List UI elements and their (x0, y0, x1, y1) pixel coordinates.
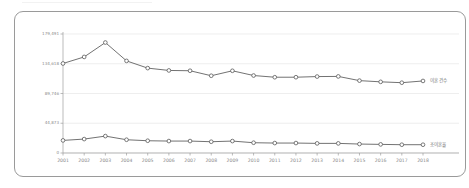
gridlines (63, 34, 459, 153)
line-chart: 044,87389,746134,618179,491 200120022003… (15, 12, 466, 177)
series-0-marker-8 (231, 69, 235, 73)
series-line-1 (63, 136, 423, 145)
x-tick-label-17: 2018 (417, 158, 429, 163)
x-tick-label-3: 2004 (121, 158, 133, 163)
x-axis (63, 153, 459, 156)
series-0-marker-1 (82, 55, 86, 59)
series-1-marker-8 (231, 139, 235, 143)
series-1-marker-15 (379, 143, 383, 147)
series-0-marker-12 (315, 75, 319, 79)
series-1-marker-6 (188, 139, 192, 143)
x-tick-label-4: 2005 (142, 158, 154, 163)
series-0-marker-16 (400, 81, 404, 85)
series-1-marker-5 (167, 139, 171, 143)
x-tick-label-7: 2008 (205, 158, 217, 163)
series-0-marker-11 (294, 75, 298, 79)
series-1-marker-16 (400, 143, 404, 147)
x-tick-label-10: 2011 (269, 158, 281, 163)
series-0-marker-5 (167, 69, 171, 73)
series-label-1: 조이혼율 (430, 141, 446, 148)
series-1-marker-4 (146, 139, 150, 143)
plot-area: 044,87389,746134,618179,491 200120022003… (15, 12, 466, 177)
series-1-marker-3 (125, 138, 129, 142)
y-tick-label-2: 89,746 (45, 91, 60, 96)
series-1-marker-9 (252, 141, 256, 145)
series-1-marker-14 (358, 142, 362, 146)
series-1-marker-7 (209, 140, 213, 144)
series-0-marker-15 (379, 80, 383, 84)
x-tick-label-6: 2007 (184, 158, 196, 163)
x-tick-label-8: 2009 (227, 158, 239, 163)
series-0-marker-14 (358, 79, 362, 83)
x-tick-label-9: 2010 (248, 158, 260, 163)
top-edge-divider (22, 2, 152, 3)
y-tick-label-3: 134,618 (42, 61, 59, 66)
series-labels: 이혼 건수조이혼율 (430, 77, 447, 148)
series-0-marker-0 (61, 62, 65, 66)
y-axis (61, 32, 64, 153)
x-tick-label-14: 2015 (354, 158, 366, 163)
series-1-marker-13 (336, 142, 340, 146)
series-0-marker-3 (125, 59, 129, 63)
series-0-marker-13 (336, 75, 340, 79)
x-tick-label-2: 2003 (100, 158, 112, 163)
y-tick-label-0: 0 (56, 150, 59, 155)
series-1-marker-1 (82, 137, 86, 141)
series-0-marker-10 (273, 75, 277, 79)
series-1-marker-0 (61, 139, 65, 143)
series-1-marker-12 (315, 142, 319, 146)
x-tick-label-5: 2006 (163, 158, 175, 163)
x-tick-label-12: 2013 (311, 158, 323, 163)
series-0-marker-6 (188, 69, 192, 73)
y-tick-label-1: 44,873 (45, 120, 60, 125)
series-0-marker-7 (209, 74, 213, 78)
x-tick-label-0: 2001 (57, 158, 69, 163)
x-tick-label-1: 2002 (78, 158, 90, 163)
x-tick-label-16: 2017 (396, 158, 408, 163)
x-tick-label-11: 2012 (290, 158, 302, 163)
chart-screenshot: 044,87389,746134,618179,491 200120022003… (0, 0, 469, 188)
series-line-0 (63, 43, 423, 83)
series-1-marker-17 (421, 143, 425, 147)
series-1-marker-2 (104, 134, 108, 138)
series-0-marker-9 (252, 74, 256, 78)
series-0-marker-17 (421, 79, 425, 83)
x-tick-label-15: 2016 (375, 158, 387, 163)
chart-card: 044,87389,746134,618179,491 200120022003… (14, 11, 466, 177)
series-0-marker-4 (146, 66, 150, 70)
x-tick-labels: 2001200220032004200520062007200820092010… (57, 158, 429, 163)
series-1-marker-11 (294, 141, 298, 145)
x-tick-label-13: 2014 (332, 158, 344, 163)
series-0-marker-2 (104, 41, 108, 45)
series-1-marker-10 (273, 141, 277, 145)
y-tick-label-4: 179,491 (42, 31, 59, 36)
series-label-0: 이혼 건수 (430, 77, 447, 84)
y-tick-labels: 044,87389,746134,618179,491 (42, 31, 59, 155)
